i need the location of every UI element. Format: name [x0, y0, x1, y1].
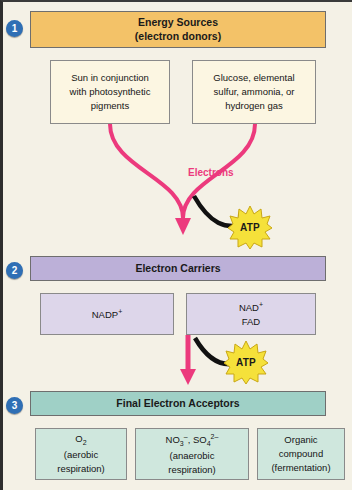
banner-electron-carriers: Electron Carriers [30, 256, 326, 281]
diagram-canvas: 1 Energy Sources (electron donors) Sun i… [0, 0, 352, 490]
box-no3-subscript: 3 [180, 440, 184, 447]
box-o2-note1: (aerobic [57, 448, 105, 462]
box-so4-charge: 2– [211, 433, 219, 440]
box-nitrate-sulfate-anaerobic: NO3–, SO42– (anaerobic respiration) [135, 428, 249, 480]
box-no3-label: NO [166, 434, 180, 445]
box-fad-label: FAD [239, 315, 263, 329]
atp-burst-top: ATP [228, 205, 272, 249]
box-o2-label: O [75, 433, 82, 444]
box-nadp: NADP+ [40, 293, 174, 335]
box-glucose-line1: Glucose, elemental [213, 71, 294, 85]
box-nad-label: NAD [239, 302, 259, 313]
box-anaerobic-note2: respiration) [166, 463, 219, 477]
atp-burst-bottom: ATP [224, 340, 268, 384]
box-o2-subscript: 2 [83, 439, 87, 446]
box-glucose-line2: sulfur, ammonia, or [213, 85, 294, 99]
box-nadp-label: NADP [92, 309, 118, 320]
box-oxygen-aerobic: O2 (aerobic respiration) [35, 428, 127, 480]
box-sun-line3: pigments [70, 99, 151, 113]
atp-label-bottom: ATP [236, 357, 256, 368]
atp-label-top: ATP [240, 222, 260, 233]
box-nadp-charge: + [118, 308, 122, 315]
box-organic-compound-fermentation: Organic compound (fermentation) [257, 428, 345, 480]
box-sun-pigments: Sun in conjunction with photosynthetic p… [50, 60, 170, 124]
box-so4-label: SO [193, 434, 207, 445]
box-organic-line3: (fermentation) [271, 461, 330, 475]
box-glucose-sulfur-ammonia: Glucose, elemental sulfur, ammonia, or h… [192, 60, 316, 124]
box-anaerobic-note1: (anaerobic [166, 449, 219, 463]
banner-energy-sources: Energy Sources (electron donors) [30, 11, 326, 48]
step-number-2: 2 [6, 262, 23, 279]
box-so4-subscript: 4 [207, 440, 211, 447]
banner-final-electron-acceptors-label: Final Electron Acceptors [116, 397, 239, 410]
box-o2-note2: respiration) [57, 462, 105, 476]
banner-energy-sources-line1: Energy Sources [135, 16, 221, 29]
label-electrons: Electrons [188, 167, 234, 178]
box-glucose-line3: hydrogen gas [213, 99, 294, 113]
box-organic-line2: compound [271, 447, 330, 461]
banner-electron-carriers-label: Electron Carriers [135, 262, 220, 275]
box-nad-fad: NAD+ FAD [186, 293, 316, 335]
banner-final-electron-acceptors: Final Electron Acceptors [30, 391, 326, 416]
box-sun-line2: with photosynthetic [70, 85, 151, 99]
box-nad-charge: + [259, 301, 263, 308]
step-number-3: 3 [6, 397, 23, 414]
banner-energy-sources-line2: (electron donors) [135, 30, 221, 43]
box-organic-line1: Organic [271, 433, 330, 447]
box-sun-line1: Sun in conjunction [70, 71, 151, 85]
step-number-1: 1 [6, 20, 23, 37]
